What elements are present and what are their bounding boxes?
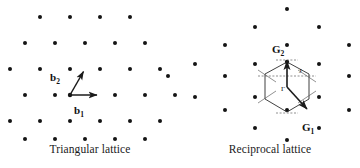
lattice-dot (347, 108, 351, 112)
lattice-dot (223, 74, 227, 78)
lattice-dot (143, 137, 147, 141)
triangular-lattice-dots (0, 15, 177, 141)
vector-G2-label: G2 (272, 43, 285, 58)
lattice-dot (317, 126, 321, 130)
lattice-dot (143, 93, 147, 97)
lattice-dot (223, 43, 227, 47)
lattice-dot (113, 137, 117, 141)
lattice-dot (8, 119, 12, 123)
lattice-dot (128, 119, 132, 123)
panel-triangular-lattice: b1 b2 Triangular lattice (0, 0, 180, 168)
lattice-dot (347, 74, 351, 78)
lattice-dot (83, 137, 87, 141)
lattice-dot (253, 126, 257, 130)
primitive-vectors-group (70, 72, 97, 96)
lattice-dot (83, 41, 87, 45)
lattice-dot (285, 7, 289, 11)
lattice-dot (143, 41, 147, 45)
lattice-dot (113, 93, 117, 97)
vector-b2-arrow (70, 72, 84, 96)
panel-reciprocal-lattice: Γ J G2 G1 Reciprocal lattice (180, 0, 360, 168)
lattice-dot (317, 25, 321, 29)
lattice-dot (53, 41, 57, 45)
lattice-dot (68, 119, 72, 123)
lattice-dot (158, 119, 162, 123)
caption-triangular-lattice: Triangular lattice (0, 143, 180, 155)
vector-G1-label: G1 (302, 121, 315, 136)
lattice-dot (317, 95, 321, 99)
j-point-label: J (299, 67, 302, 75)
lattice-dot (98, 67, 102, 71)
lattice-dot (68, 67, 72, 71)
lattice-dot (193, 95, 197, 99)
lattice-dot (128, 15, 132, 19)
lattice-dot (193, 62, 197, 66)
lattice-dot (317, 62, 321, 66)
lattice-figure: b1 b2 Triangular lattice (0, 0, 360, 168)
lattice-dot (347, 43, 351, 47)
lattice-dot (23, 41, 27, 45)
lattice-dot (253, 95, 257, 99)
caption-reciprocal-lattice: Reciprocal lattice (180, 143, 360, 155)
lattice-dot (38, 67, 42, 71)
lattice-dot (223, 108, 227, 112)
lattice-dot (128, 67, 132, 71)
vector-b2-label: b2 (50, 71, 60, 86)
reciprocal-lattice-dots (166, 7, 360, 142)
lattice-dot (285, 138, 289, 142)
lattice-dot (253, 25, 257, 29)
lattice-dot (23, 137, 27, 141)
lattice-dot (98, 15, 102, 19)
lattice-dot (23, 93, 27, 97)
lattice-dot (98, 119, 102, 123)
lattice-dot (53, 137, 57, 141)
lattice-dot (285, 43, 289, 47)
lattice-dot (38, 15, 42, 19)
lattice-dot (68, 15, 72, 19)
gamma-point-label: Γ (281, 85, 285, 93)
vector-b1-label: b1 (74, 104, 84, 119)
lattice-dot (173, 93, 177, 97)
lattice-dot (53, 93, 57, 97)
lattice-dot (158, 67, 162, 71)
lattice-dot (113, 41, 117, 45)
lattice-dot (8, 67, 12, 71)
lattice-dot (38, 119, 42, 123)
lattice-dot (253, 62, 257, 66)
lattice-dot (166, 74, 170, 78)
